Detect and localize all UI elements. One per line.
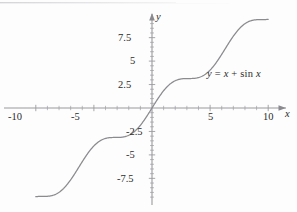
equation-annotation: y = x + sin x	[207, 68, 261, 79]
y-tick-label-7.5: 7.5	[118, 33, 131, 44]
equation-sin: sin	[240, 68, 253, 79]
y-tick-label-2.5: 2.5	[118, 80, 131, 91]
plot-area	[0, 0, 297, 212]
y-axis-name-label: y	[156, 12, 161, 23]
x-tick-label-10: 10	[263, 112, 274, 123]
x-tick-label-neg10: -10	[8, 112, 22, 123]
chart-figure: 7.5 5 2.5 -2.5 -5 -7.5 -10 -5 5 10 y x y…	[0, 0, 297, 212]
y-tick-label-neg5: -5	[126, 150, 135, 161]
y-tick-label-5: 5	[130, 56, 135, 67]
y-tick-label-neg7.5: -7.5	[117, 174, 134, 185]
y-axis-arrowhead	[149, 13, 155, 21]
x-tick-label-neg5: -5	[71, 112, 80, 123]
x-tick-label-5: 5	[208, 112, 213, 123]
y-tick-label-neg2.5: -2.5	[126, 127, 143, 138]
equation-x-argument: x	[256, 68, 261, 79]
x-axis-name-label: x	[285, 109, 290, 120]
